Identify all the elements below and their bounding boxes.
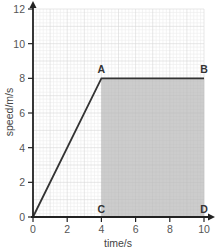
x-tick-label: 4 [98,223,104,235]
point-label-c: C [98,203,106,215]
point-label-d: D [200,203,208,215]
x-tick-label: 2 [64,223,70,235]
y-tick-label: 0 [19,211,25,223]
x-tick-label: 8 [167,223,173,235]
y-axis-title: speed/m/s [3,88,15,136]
point-label-b: B [200,63,208,75]
point-label-a: A [98,63,106,75]
y-tick-label: 2 [19,176,25,188]
x-axis-arrow-icon [208,214,215,221]
grid-over-shade [101,78,204,217]
x-tick-label: 6 [133,223,139,235]
x-tick-label: 0 [30,223,36,235]
y-tick-label: 4 [19,142,25,154]
x-axis-title: time/s [104,237,132,249]
speed-time-graph: 0246810024681012 ABCD time/s speed/m/s [0,0,215,252]
y-tick-label: 12 [13,3,25,15]
x-tick-label: 10 [198,223,210,235]
y-axis-arrow-icon [30,1,37,8]
y-tick-label: 8 [19,72,25,84]
y-tick-label: 6 [19,107,25,119]
y-tick-label: 10 [13,38,25,50]
